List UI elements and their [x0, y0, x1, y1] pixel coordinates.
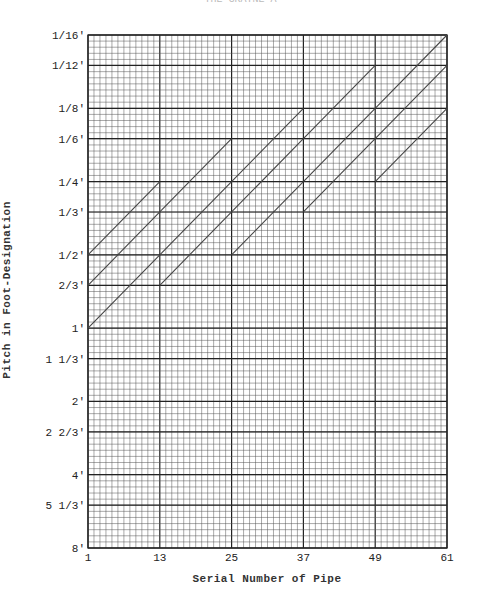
y-tick-label: 2' — [72, 396, 85, 408]
x-axis-labels: 11325374961 — [85, 552, 454, 564]
grid — [88, 35, 447, 548]
y-tick-label: 1' — [72, 323, 85, 335]
y-tick-label: 1 1/3' — [45, 354, 85, 366]
x-tick-label: 13 — [153, 552, 166, 564]
y-tick-label: 2 2/3' — [45, 427, 85, 439]
y-axis-title: Pitch in Foot-Designation — [1, 201, 13, 379]
y-tick-label: 5 1/3' — [45, 500, 85, 512]
x-tick-label: 37 — [297, 552, 310, 564]
y-tick-label: 1/12' — [52, 60, 85, 72]
x-tick-label: 61 — [440, 552, 454, 564]
y-tick-label: 2/3' — [59, 280, 85, 292]
pitch-chart: 1/16'1/12'1/8'1/6'1/4'1/3'1/2'2/3'1'1 1/… — [0, 0, 481, 604]
x-tick-label: 1 — [85, 552, 92, 564]
x-tick-label: 49 — [369, 552, 382, 564]
y-tick-label: 1/2' — [59, 250, 85, 262]
y-tick-label: 1/6' — [59, 134, 85, 146]
y-axis-labels: 1/16'1/12'1/8'1/6'1/4'1/3'1/2'2/3'1'1 1/… — [45, 30, 85, 555]
x-tick-label: 25 — [225, 552, 238, 564]
x-axis-title: Serial Number of Pipe — [192, 573, 341, 585]
y-tick-label: 8' — [72, 543, 85, 555]
y-tick-label: 1/8' — [59, 103, 85, 115]
y-tick-label: 1/4' — [59, 177, 85, 189]
y-tick-label: 1/3' — [59, 207, 85, 219]
y-tick-label: 4' — [72, 470, 85, 482]
y-tick-label: 1/16' — [52, 30, 85, 42]
